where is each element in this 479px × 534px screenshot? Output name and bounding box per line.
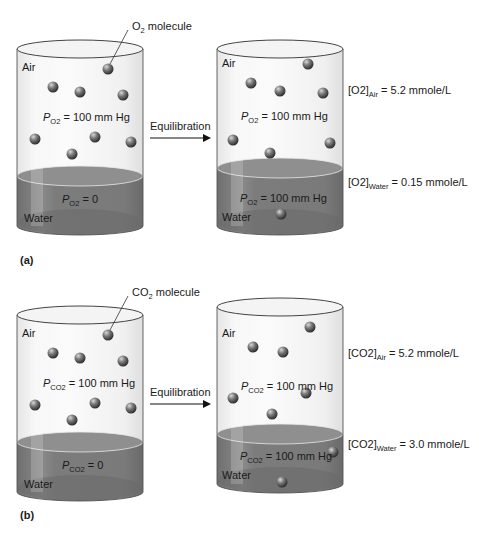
molecule <box>278 347 289 358</box>
molecule <box>276 209 287 220</box>
molecule <box>318 88 329 99</box>
air-label: Air <box>22 61 36 73</box>
molecule <box>48 348 59 359</box>
air-label: Air <box>22 327 36 339</box>
molecule <box>118 356 129 367</box>
air-label: Air <box>222 57 236 69</box>
molecule <box>248 342 259 353</box>
molecule <box>103 64 114 75</box>
water-label: Water <box>24 478 53 490</box>
cylinder-after: AirWaterPO2 = 100 mm HgPO2 = 100 mm Hg <box>217 40 343 235</box>
molecule <box>118 90 129 101</box>
after-rim <box>217 40 343 58</box>
molecule <box>303 59 314 70</box>
molecule-callout-label: CO2 molecule <box>132 286 200 301</box>
molecule <box>90 398 101 409</box>
molecule <box>75 87 86 98</box>
molecule <box>30 400 41 411</box>
air-label: Air <box>222 327 236 339</box>
molecule <box>67 149 78 160</box>
molecule <box>75 353 86 364</box>
water-concentration-label: [CO2]Water = 3.0 mmole/L <box>348 438 470 453</box>
before-rim <box>17 306 143 324</box>
molecule <box>30 134 41 145</box>
cylinder-after: AirWaterPCO2 = 100 mm HgPCO2 = 100 mm Hg <box>217 298 343 493</box>
water-concentration-label: [O2]Water = 0.15 mmole/L <box>348 176 468 191</box>
panel-b: AirWaterPCO2 = 100 mm HgPCO2 = 0CO2 mole… <box>17 286 470 521</box>
molecule <box>325 138 336 149</box>
gas-equilibration-diagram: AirWaterPO2 = 100 mm HgPO2 = 0O2 molecul… <box>0 0 479 534</box>
molecule <box>48 82 59 93</box>
panel-label: (a) <box>20 254 34 266</box>
equilibration-label: Equilibration <box>150 386 211 398</box>
before-rim <box>17 40 143 58</box>
panel-a: AirWaterPO2 = 100 mm HgPO2 = 0O2 molecul… <box>17 20 468 266</box>
molecule <box>90 132 101 143</box>
molecule <box>228 393 239 404</box>
equilibration-label: Equilibration <box>150 120 211 132</box>
molecule <box>228 135 239 146</box>
water-label: Water <box>24 212 53 224</box>
molecule <box>67 415 78 426</box>
equilibration-arrow-head <box>203 400 211 408</box>
water-label: Water <box>222 211 251 223</box>
air-concentration-label: [CO2]Air = 5.2 mmole/L <box>348 347 459 362</box>
air-concentration-label: [O2]Air = 5.2 mmole/L <box>348 84 451 99</box>
panel-label: (b) <box>20 509 34 521</box>
molecule <box>103 330 114 341</box>
molecule <box>267 409 278 420</box>
molecule-callout-label: O2 molecule <box>132 20 192 35</box>
equilibration-arrow-head <box>203 134 211 142</box>
molecule <box>265 148 276 159</box>
molecule <box>305 322 316 333</box>
water-label: Water <box>222 469 251 481</box>
molecule <box>277 477 288 488</box>
molecule <box>126 137 137 148</box>
molecule <box>275 86 286 97</box>
molecule <box>126 403 137 414</box>
molecule <box>246 78 257 89</box>
after-rim <box>217 298 343 316</box>
